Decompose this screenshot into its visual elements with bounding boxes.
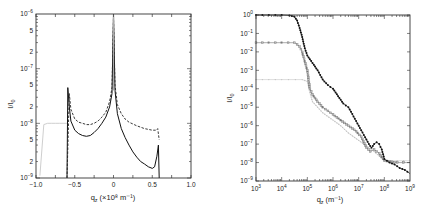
left-series-light-gray: [40, 123, 67, 175]
right-plot-frame: [256, 15, 410, 181]
right-y-tick-label: 10−3: [240, 66, 253, 74]
right-x-tick-label: 108: [379, 184, 389, 192]
right-y-tick-label: 10−6: [240, 121, 253, 129]
left-x-tick-label: 1.0: [186, 181, 195, 188]
right-x-axis-label: qz(m⁻¹): [317, 195, 344, 205]
right-series-black-filled: [255, 14, 410, 174]
right-y-tick-label: 10−1: [240, 29, 253, 37]
left-y-tick-label: 5: [29, 81, 33, 88]
right-y-tick-label: 100: [243, 10, 253, 18]
right-y-tick-label: 10−4: [240, 84, 253, 92]
left-y-tick-label: 5: [29, 27, 33, 34]
right-x-tick-label: 104: [277, 184, 287, 192]
right-x-tick-label: 107: [354, 184, 364, 192]
figure: −1.0−0.500.51.010−92510−82510−72510−6 I/…: [0, 0, 421, 215]
left-y-tick-label: 10−8: [20, 119, 33, 127]
right-y-tick-label: 10−7: [240, 139, 253, 147]
left-y-tick-label: 10−6: [20, 9, 33, 17]
left-x-tick-label: 0.5: [148, 181, 157, 188]
left-y-tick-label: 10−7: [20, 64, 33, 72]
right-axis-ticks: 10310410510610710810910−910−810−710−610−…: [240, 10, 415, 192]
left-axis-ticks: −1.0−0.500.51.010−92510−82510−72510−6: [20, 9, 196, 188]
left-x-tick-label: 0: [112, 181, 116, 188]
right-x-tick-label: 103: [251, 184, 261, 192]
right-y-tick-label: 10−2: [240, 47, 253, 55]
left-x-tick-label: −1.0: [30, 181, 43, 188]
right-x-tick-label: 105: [302, 184, 312, 192]
left-y-axis-label: I/I0: [6, 99, 16, 108]
right-x-tick-label: 106: [328, 184, 338, 192]
right-series-light-gray: [255, 79, 410, 161]
left-y-tick-label: 2: [29, 158, 33, 165]
right-y-tick-label: 10−9: [240, 176, 253, 184]
right-series-gray-open: [255, 42, 410, 164]
left-y-tick-label: 2: [29, 103, 33, 110]
left-y-tick-label: 5: [29, 136, 33, 143]
right-panel: 10310410510610710810910−910−810−710−610−…: [225, 10, 415, 205]
left-y-tick-label: 10−9: [20, 173, 33, 181]
right-y-tick-label: 10−8: [240, 158, 253, 166]
right-y-tick-label: 10−5: [240, 102, 253, 110]
right-x-tick-label: 109: [405, 184, 415, 192]
left-x-tick-label: −0.5: [68, 181, 81, 188]
left-x-axis-label: qz(×10⁸ m⁻¹): [91, 193, 136, 203]
right-y-axis-label: I/I0: [225, 93, 235, 102]
left-plot-series: [40, 14, 159, 178]
left-panel: −1.0−0.500.51.010−92510−82510−72510−6 I/…: [6, 9, 196, 203]
right-plot-series: [255, 14, 410, 174]
left-y-tick-label: 2: [29, 48, 33, 55]
